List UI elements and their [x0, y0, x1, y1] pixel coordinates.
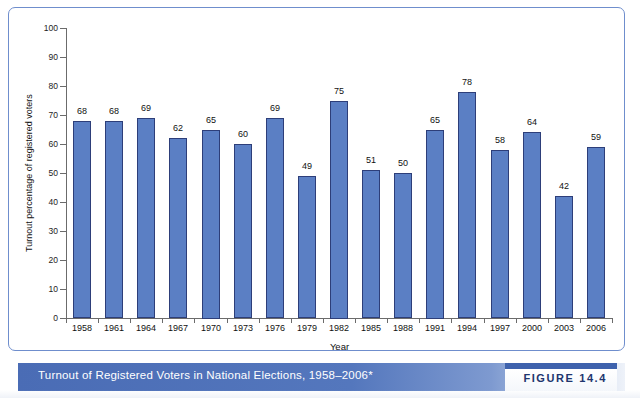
x-axis-tick-label: 2000 — [514, 324, 550, 333]
bar-value-label: 59 — [580, 133, 612, 142]
x-axis-tick — [66, 318, 67, 323]
y-axis-line — [66, 28, 67, 319]
figure-number-box: FIGURE 14.4 — [505, 363, 617, 391]
bar — [266, 118, 284, 318]
bar — [73, 121, 91, 318]
x-axis-tick-label: 1994 — [449, 324, 485, 333]
bar-value-label: 68 — [98, 107, 130, 116]
x-axis-tick — [355, 318, 356, 323]
x-axis-tick — [451, 318, 452, 323]
bar — [426, 130, 444, 319]
figure-caption-band: Turnout of Registered Voters in National… — [18, 363, 625, 391]
bar — [137, 118, 155, 318]
bar-value-label: 62 — [162, 124, 194, 133]
bar — [105, 121, 123, 318]
bar — [330, 101, 348, 319]
bar-chart: 0102030405060708090100 Turnout percentag… — [0, 0, 640, 356]
x-axis-tick-label: 1961 — [96, 324, 132, 333]
bar-value-label: 69 — [130, 104, 162, 113]
bar — [491, 150, 509, 318]
y-axis-tick — [60, 86, 66, 87]
bar — [298, 176, 316, 318]
x-axis-tick — [419, 318, 420, 323]
bar-value-label: 64 — [516, 118, 548, 127]
figure-number: FIGURE 14.4 — [523, 372, 607, 384]
bar — [394, 173, 412, 318]
x-axis-tick — [580, 318, 581, 323]
x-axis-tick-label: 1973 — [225, 324, 261, 333]
bar — [523, 132, 541, 318]
x-axis-tick-label: 2003 — [546, 324, 582, 333]
x-axis-tick-label: 1976 — [257, 324, 293, 333]
y-axis-title: Turnout percentage of registered voters — [24, 58, 34, 288]
bar-value-label: 68 — [66, 107, 98, 116]
y-axis-tick — [60, 231, 66, 232]
x-axis-tick — [323, 318, 324, 323]
x-axis-tick-label: 1967 — [160, 324, 196, 333]
x-axis-tick-label: 1988 — [385, 324, 421, 333]
bar-value-label: 60 — [227, 130, 259, 139]
x-axis-tick-label: 1985 — [353, 324, 389, 333]
x-axis-tick-label: 1997 — [482, 324, 518, 333]
x-axis-tick — [612, 318, 613, 323]
x-axis-title: Year — [66, 341, 613, 352]
bar — [202, 130, 220, 319]
x-axis-tick — [98, 318, 99, 323]
x-axis-tick-label: 1982 — [321, 324, 357, 333]
y-axis-tick-label: 100 — [6, 24, 58, 33]
figure-caption: Turnout of Registered Voters in National… — [38, 369, 373, 381]
y-axis-tick — [60, 57, 66, 58]
y-axis-tick — [60, 28, 66, 29]
bar-value-label: 65 — [419, 116, 451, 125]
bar-value-label: 58 — [484, 136, 516, 145]
x-axis-tick — [387, 318, 388, 323]
bar-value-label: 69 — [259, 104, 291, 113]
x-axis-tick — [194, 318, 195, 323]
x-axis-tick-label: 1964 — [128, 324, 164, 333]
bar — [458, 92, 476, 318]
bar-value-label: 42 — [548, 182, 580, 191]
y-axis-tick — [60, 144, 66, 145]
bar-value-label: 75 — [323, 87, 355, 96]
x-axis-tick-label: 2006 — [578, 324, 614, 333]
bar — [587, 147, 605, 318]
y-axis-tick — [60, 173, 66, 174]
x-axis-tick — [130, 318, 131, 323]
y-axis-tick — [60, 202, 66, 203]
bar — [555, 196, 573, 318]
x-axis-tick-label: 1970 — [193, 324, 229, 333]
x-axis-tick-label: 1958 — [64, 324, 100, 333]
y-axis-tick-label: 0 — [6, 314, 58, 323]
x-axis-tick — [291, 318, 292, 323]
x-axis-tick — [227, 318, 228, 323]
bar-value-label: 51 — [355, 156, 387, 165]
bar-value-label: 78 — [451, 78, 483, 87]
bar — [234, 144, 252, 318]
x-axis-tick — [259, 318, 260, 323]
x-axis-tick — [162, 318, 163, 323]
y-axis-tick — [60, 260, 66, 261]
x-axis-tick — [548, 318, 549, 323]
x-axis-tick-label: 1991 — [417, 324, 453, 333]
bar-value-label: 49 — [291, 162, 323, 171]
page-shading — [0, 390, 640, 398]
x-axis-tick — [516, 318, 517, 323]
bar-value-label: 50 — [387, 159, 419, 168]
bar-value-label: 65 — [195, 116, 227, 125]
y-axis-tick — [60, 289, 66, 290]
x-axis-tick — [484, 318, 485, 323]
x-axis-tick-label: 1979 — [289, 324, 325, 333]
bar — [362, 170, 380, 318]
bar — [169, 138, 187, 318]
